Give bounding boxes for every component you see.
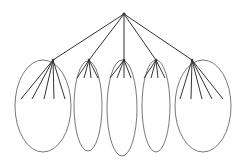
root-edge — [124, 14, 156, 60]
child-node — [123, 59, 126, 62]
leaf-edge — [32, 60, 53, 99]
leaf-edge — [180, 60, 192, 99]
group-ellipse — [107, 60, 137, 156]
child-node — [88, 59, 91, 62]
root-edge — [53, 14, 124, 60]
leaf-edge — [53, 60, 54, 99]
root-node — [122, 12, 125, 15]
root-edge — [124, 14, 192, 60]
child-node — [191, 59, 194, 62]
leaf-edge — [151, 60, 156, 78]
leaf-edge — [117, 60, 124, 78]
leaf-edge — [77, 60, 89, 78]
leaf-edge — [53, 60, 65, 99]
child-node — [155, 59, 158, 62]
group-ellipse — [15, 60, 71, 152]
group-ellipse — [74, 61, 102, 151]
root-edge — [89, 14, 124, 60]
leaf-edge — [84, 60, 89, 78]
leaf-edge — [144, 60, 156, 78]
leaf-edge — [191, 60, 192, 99]
child-node — [52, 59, 55, 62]
tree-diagram — [0, 0, 249, 166]
leaf-edge — [192, 60, 212, 99]
